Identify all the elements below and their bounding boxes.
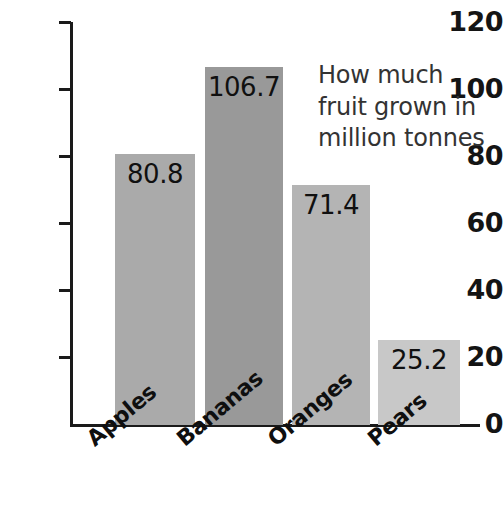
bar-value-pears: 25.2 [378, 346, 460, 375]
annotation-line-3: million tonnes [318, 123, 498, 155]
bar-apples: 80.8 [115, 154, 195, 425]
annotation-line-2: fruit grown in [318, 92, 498, 124]
bar-value-oranges: 71.4 [292, 191, 370, 220]
chart-annotation: How much fruit grown in million tonnes [318, 60, 498, 155]
annotation-line-1: How much [318, 60, 498, 92]
bar-value-apples: 80.8 [115, 160, 195, 189]
bar-chart: 120 100 80 60 40 20 0 80.8 106.7 71.4 25… [0, 0, 503, 518]
bar-value-bananas: 106.7 [205, 73, 283, 102]
